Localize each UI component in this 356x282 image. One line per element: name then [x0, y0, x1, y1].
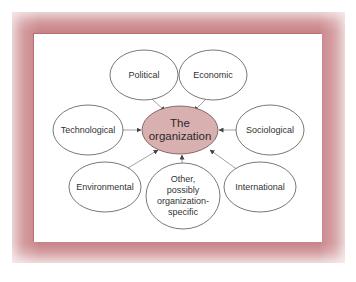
- node-economic-label: Economic: [193, 70, 233, 80]
- center-label-line2: organization: [149, 130, 212, 142]
- node-other-label-line2: possibly: [167, 185, 200, 195]
- node-center-organization: The organization: [142, 106, 218, 154]
- node-environmental-label: Environmental: [76, 182, 134, 192]
- edge-international: [210, 150, 238, 170]
- node-other-label-line4: specific: [168, 207, 199, 217]
- node-international-label: International: [235, 182, 285, 192]
- node-sociological-label: Sociological: [246, 125, 294, 135]
- node-political-label: Political: [128, 70, 159, 80]
- node-environmental: Environmental: [69, 162, 141, 212]
- node-other: Other, possibly organization- specific: [146, 163, 220, 229]
- node-other-label-line3: organization-: [157, 196, 209, 206]
- node-international: International: [224, 162, 296, 212]
- node-technological: Technological: [53, 105, 123, 155]
- node-political: Political: [110, 50, 178, 100]
- node-other-label-line1: Other,: [171, 174, 196, 184]
- edge-environmental: [128, 150, 158, 168]
- environment-diagram: Political Economic Technological Sociolo…: [0, 0, 356, 282]
- node-sociological: Sociological: [236, 105, 304, 155]
- center-label-line1: The: [170, 117, 190, 129]
- node-technological-label: Technological: [61, 125, 116, 135]
- node-economic: Economic: [179, 50, 247, 100]
